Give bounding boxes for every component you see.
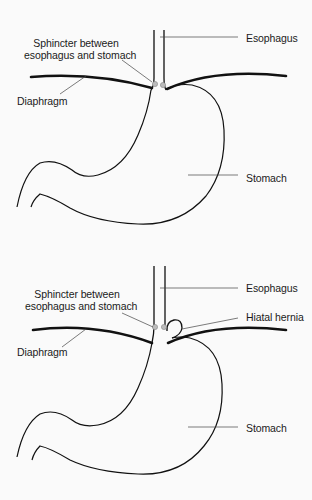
sphincter-label: Sphincter between esophagus and stomach (25, 288, 129, 312)
stomach-label: Stomach (246, 422, 287, 434)
sphincter-label-line2: esophagus and stomach (24, 49, 128, 61)
diaphragm-right (168, 328, 286, 343)
stomach-inner-curve (17, 343, 152, 457)
diaphragm-leader (62, 329, 86, 347)
esophagus-right-wall (164, 30, 166, 90)
diaphragm-left (33, 328, 152, 343)
esophagus-left-wall (151, 30, 154, 90)
sphincter-leader (122, 60, 152, 82)
diaphragm-right (167, 74, 286, 89)
esophagus-left-wall (152, 266, 154, 343)
esophagus-label: Esophagus (246, 32, 298, 44)
diaphragm-label: Diaphragm (17, 95, 67, 107)
sphincter-label-line1: Sphincter between (25, 288, 129, 300)
diaphragm-label: Diaphragm (17, 346, 67, 358)
sphincter-leader (122, 313, 153, 327)
stomach-label: Stomach (246, 172, 287, 184)
sphincter-label: Sphincter between esophagus and stomach (24, 37, 128, 61)
hiatal-hernia-bulge (167, 320, 182, 338)
sphincter-left (152, 324, 157, 329)
figure-normal: Sphincter between esophagus and stomach … (0, 0, 312, 250)
figure-hiatal-hernia: Sphincter between esophagus and stomach … (0, 250, 312, 500)
stomach-inner-curve (17, 90, 151, 207)
hiatal-hernia-label: Hiatal hernia (246, 311, 304, 323)
diaphragm-leader (60, 76, 86, 94)
sphincter-label-line2: esophagus and stomach (25, 300, 129, 312)
sphincter-label-line1: Sphincter between (24, 37, 128, 49)
diaphragm-left (31, 76, 152, 88)
sphincter-left (152, 81, 157, 86)
sphincter-right (160, 82, 165, 87)
sphincter-right (161, 324, 166, 329)
esophagus-label: Esophagus (246, 282, 298, 294)
